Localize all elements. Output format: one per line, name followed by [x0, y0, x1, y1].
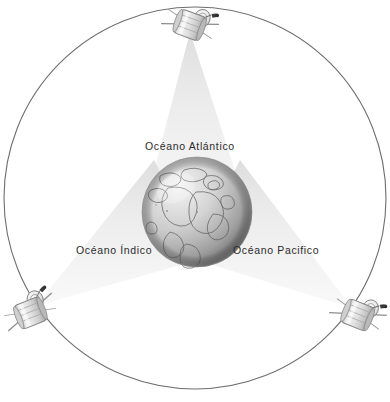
label-oceano-indico: Océano Índico	[76, 245, 152, 256]
label-oceano-atlantico: Océano Atlántico	[145, 141, 235, 152]
satellite-coverage-diagram	[0, 0, 390, 402]
figure-canvas: Océano Atlántico Océano Índico Océano Pa…	[0, 0, 390, 402]
label-oceano-pacifico: Océano Pacifico	[233, 245, 319, 256]
